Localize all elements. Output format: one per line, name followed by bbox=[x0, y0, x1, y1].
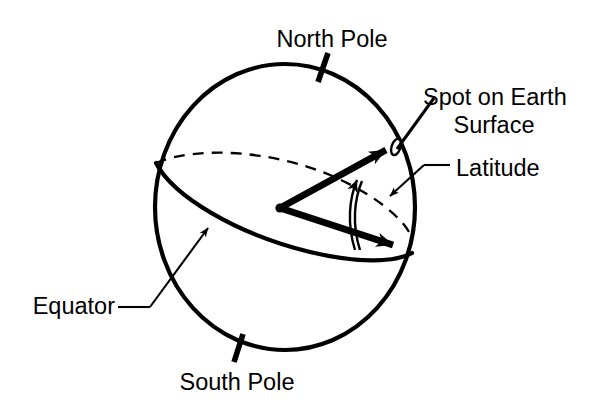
diagram-canvas: North Pole South Pole Equator Spot on Ea… bbox=[0, 0, 590, 411]
earth-latitude-diagram: North Pole South Pole Equator Spot on Ea… bbox=[0, 0, 590, 411]
latitude-leader-arrow bbox=[390, 165, 424, 196]
label-spot-on-earth-line1: Spot on Earth bbox=[423, 84, 567, 110]
radius-arrow-to-equator bbox=[280, 208, 393, 245]
label-spot-on-earth-line2: Surface bbox=[454, 112, 535, 138]
label-south-pole: South Pole bbox=[180, 369, 295, 395]
equator-back-arc-dashed bbox=[156, 153, 409, 232]
label-latitude: Latitude bbox=[456, 155, 540, 181]
label-north-pole: North Pole bbox=[276, 26, 387, 52]
spot-on-earth-marker bbox=[389, 138, 403, 157]
label-equator: Equator bbox=[33, 293, 115, 319]
earth-center-point bbox=[275, 203, 284, 212]
radius-arrow-to-spot bbox=[280, 150, 386, 208]
